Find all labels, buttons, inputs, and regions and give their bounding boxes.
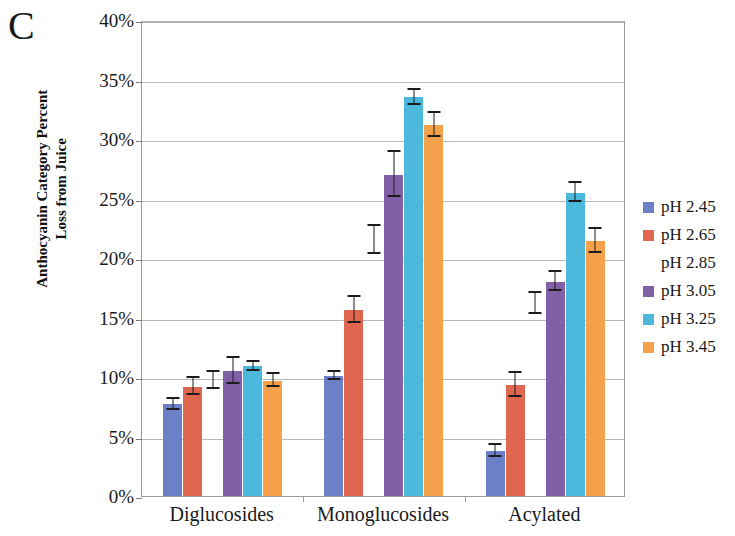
bar[interactable] <box>223 311 242 496</box>
legend-item[interactable]: pH 2.85 <box>643 249 716 277</box>
bar[interactable] <box>163 344 182 496</box>
error-bar-cap-bottom <box>407 103 420 105</box>
legend-item-label: pH 3.25 <box>661 309 716 329</box>
error-bar-cap-top <box>569 181 582 183</box>
error-bar-cap-bottom <box>206 387 219 389</box>
error-bar-cap-bottom <box>367 252 380 254</box>
bar-rect <box>384 175 403 496</box>
bar[interactable] <box>324 316 343 496</box>
legend-item[interactable]: pH 2.65 <box>643 221 716 249</box>
bar-rect <box>183 387 202 496</box>
error-bar-cap-top <box>367 224 380 226</box>
error-bar-cap-bottom <box>529 312 542 314</box>
error-bar-cap-bottom <box>166 408 179 410</box>
x-axis-group-separator <box>465 496 466 502</box>
bar[interactable] <box>384 115 403 496</box>
error-bar-cap-top <box>407 88 420 90</box>
y-axis-tickmark <box>136 498 142 499</box>
y-axis-tick-label: 35% <box>62 70 134 92</box>
bar[interactable] <box>203 321 222 496</box>
y-axis-tick-label: 40% <box>62 10 134 32</box>
bar[interactable] <box>526 243 545 496</box>
bar[interactable] <box>364 180 383 496</box>
bar-rect <box>324 376 343 496</box>
error-bar <box>353 297 354 323</box>
bar[interactable] <box>183 327 202 496</box>
bar-rect <box>203 381 222 496</box>
error-bar-cap-bottom <box>327 378 340 380</box>
bar-group <box>142 22 303 496</box>
plot-area <box>141 21 625 497</box>
error-bar-cap-top <box>266 372 279 374</box>
legend-item-label: pH 3.05 <box>661 281 716 301</box>
error-bar-cap-top <box>186 376 199 378</box>
error-bar-cap-top <box>206 370 219 372</box>
y-axis-tick-label: 25% <box>62 189 134 211</box>
error-bar-cap-top <box>509 371 522 373</box>
error-bar <box>433 113 434 137</box>
bar-rect <box>243 366 262 496</box>
bar-rect <box>344 310 363 496</box>
legend-color-swatch <box>643 258 654 269</box>
bar-rect <box>404 97 423 496</box>
bar-rect <box>486 451 505 496</box>
legend-color-swatch <box>643 314 654 325</box>
error-bar-cap-top <box>166 397 179 399</box>
legend-item[interactable]: pH 2.45 <box>643 193 716 221</box>
bar[interactable] <box>404 37 423 496</box>
bar[interactable] <box>546 222 565 496</box>
bar[interactable] <box>486 391 505 496</box>
legend-item[interactable]: pH 3.45 <box>643 333 716 361</box>
bar-group <box>303 22 464 496</box>
bar[interactable] <box>243 306 262 496</box>
error-bar <box>515 373 516 397</box>
bar[interactable] <box>566 133 585 496</box>
y-axis-tick-label: 30% <box>62 129 134 151</box>
legend-item[interactable]: pH 3.25 <box>643 305 716 333</box>
error-bar-cap-top <box>387 150 400 152</box>
error-bar <box>393 152 394 197</box>
error-bar-cap-bottom <box>266 385 279 387</box>
legend-color-swatch <box>643 342 654 353</box>
bar[interactable] <box>263 321 282 496</box>
bar[interactable] <box>424 65 443 496</box>
bar-group <box>465 22 626 496</box>
legend-color-swatch <box>643 202 654 213</box>
error-bar-cap-bottom <box>246 369 259 371</box>
x-axis-group-separator <box>303 496 304 502</box>
bar[interactable] <box>344 250 363 496</box>
error-bar-cap-bottom <box>427 135 440 137</box>
error-bar-cap-bottom <box>489 455 502 457</box>
y-axis-tick-label: 15% <box>62 308 134 330</box>
error-bar-cap-top <box>529 291 542 293</box>
bar-rect <box>263 381 282 496</box>
legend-item-label: pH 2.45 <box>661 197 716 217</box>
y-axis-tick-labels: 0%5%10%15%20%25%30%35%40% <box>62 0 134 536</box>
bar-rect <box>163 404 182 496</box>
error-bar-cap-top <box>226 356 239 358</box>
error-bar-cap-bottom <box>387 195 400 197</box>
error-bar-cap-bottom <box>509 395 522 397</box>
legend-item-label: pH 2.65 <box>661 225 716 245</box>
bar[interactable] <box>506 325 525 496</box>
error-bar-cap-bottom <box>569 200 582 202</box>
error-bar-cap-top <box>589 227 602 229</box>
legend: pH 2.45pH 2.65pH 2.85pH 3.05pH 3.25pH 3.… <box>643 193 716 361</box>
bar-rect <box>586 241 605 496</box>
error-bar-cap-bottom <box>347 321 360 323</box>
bar-rect <box>364 240 383 496</box>
x-axis-tick-label: Acylated <box>508 503 580 526</box>
bar[interactable] <box>586 181 605 496</box>
bar-rect <box>546 282 565 496</box>
y-axis-title-line1: Anthocyanin Category Percent <box>34 90 50 288</box>
error-bar-cap-bottom <box>589 251 602 253</box>
y-axis-tick-label: 10% <box>62 367 134 389</box>
error-bar-cap-bottom <box>226 382 239 384</box>
error-bar-cap-top <box>549 270 562 272</box>
panel-label: C <box>8 6 35 46</box>
legend-item[interactable]: pH 3.05 <box>643 277 716 305</box>
error-bar <box>232 358 233 384</box>
error-bar-cap-top <box>427 111 440 113</box>
error-bar-cap-bottom <box>186 393 199 395</box>
error-bar-cap-top <box>246 360 259 362</box>
